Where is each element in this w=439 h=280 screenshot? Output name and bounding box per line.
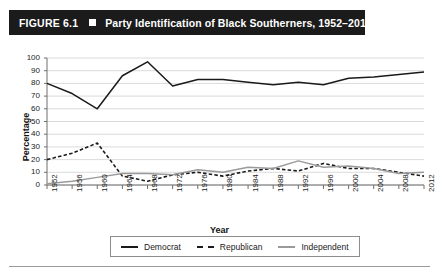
y-tick-label: 100 bbox=[18, 54, 40, 62]
x-axis-title: Year bbox=[0, 225, 439, 235]
x-tick-label: 1956 bbox=[76, 174, 84, 192]
y-tick-label: 0 bbox=[18, 181, 40, 189]
figure-number-label: FIGURE 6.1 bbox=[19, 17, 78, 29]
legend-label: Republican bbox=[220, 242, 263, 252]
footer-divider bbox=[9, 266, 430, 267]
figure-title-bar: FIGURE 6.1 Party Identification of Black… bbox=[9, 10, 365, 35]
x-tick-label: 1960 bbox=[101, 174, 109, 192]
x-tick-label: 1968 bbox=[151, 174, 159, 192]
legend-entry-democrat: Democrat bbox=[121, 242, 181, 252]
legend-swatch-democrat bbox=[121, 246, 138, 248]
legend-entry-republican: Republican bbox=[197, 242, 263, 252]
page-title: Party Identification of Black Southerner… bbox=[105, 17, 372, 29]
line-chart-svg bbox=[0, 40, 439, 245]
white-square-icon bbox=[89, 19, 96, 26]
x-tick-label: 1992 bbox=[302, 174, 310, 192]
legend-swatch-republican bbox=[197, 246, 214, 248]
chart-plot-area: 1009080706050403020100 19521956196019641… bbox=[0, 40, 439, 245]
x-tick-label: 1952 bbox=[51, 174, 59, 192]
chart-legend: DemocratRepublicanIndependent bbox=[110, 236, 360, 257]
x-tick-label: 2008 bbox=[402, 174, 410, 192]
y-tick-label: 90 bbox=[18, 67, 40, 75]
x-tick-label: 1976 bbox=[201, 174, 209, 192]
x-tick-label: 1972 bbox=[176, 174, 184, 192]
x-tick-label: 1980 bbox=[226, 174, 234, 192]
legend-swatch-independent bbox=[278, 246, 295, 248]
x-tick-label: 2004 bbox=[377, 174, 385, 192]
x-tick-label: 1964 bbox=[126, 174, 134, 192]
legend-label: Independent bbox=[301, 242, 348, 252]
figure-container: FIGURE 6.1 Party Identification of Black… bbox=[0, 0, 439, 280]
series-group bbox=[47, 62, 424, 184]
x-tick-label: 2012 bbox=[428, 174, 436, 192]
legend-label: Democrat bbox=[144, 242, 181, 252]
x-tick-label: 1984 bbox=[252, 174, 260, 192]
x-tick-label: 1996 bbox=[327, 174, 335, 192]
x-tick-label: 2000 bbox=[352, 174, 360, 192]
x-tick-label: 1988 bbox=[277, 174, 285, 192]
y-tick-label: 80 bbox=[18, 79, 40, 87]
series-line-democrat bbox=[47, 62, 424, 109]
y-tick-label: 70 bbox=[18, 92, 40, 100]
y-axis-title: Percentage bbox=[21, 102, 31, 172]
legend-entry-independent: Independent bbox=[278, 242, 348, 252]
